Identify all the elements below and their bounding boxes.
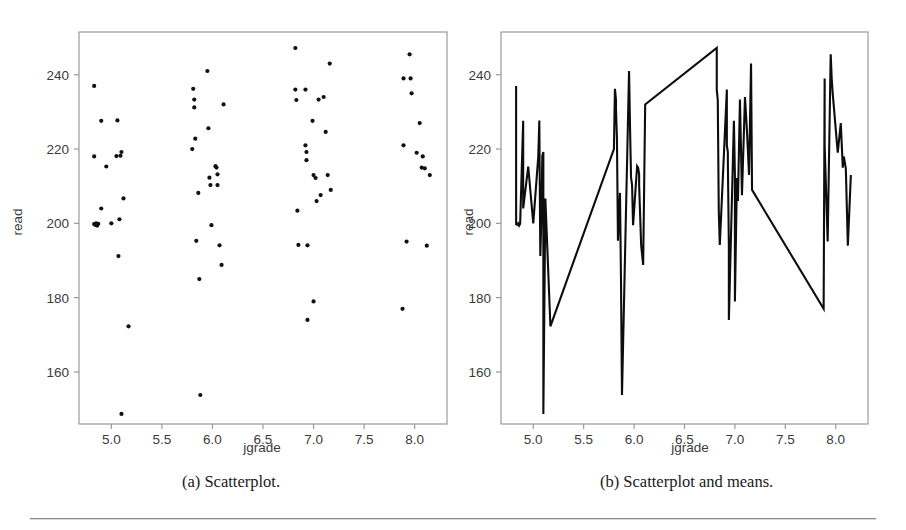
plot-ticks-b: 5.05.56.06.57.07.58.0160180200220240 bbox=[468, 68, 845, 447]
scatter-point bbox=[319, 193, 323, 197]
scatter-point bbox=[303, 143, 307, 147]
scatter-point bbox=[295, 209, 299, 213]
scatter-point bbox=[423, 166, 427, 170]
scatter-point bbox=[326, 173, 330, 177]
scatter-point bbox=[294, 98, 298, 102]
scatter-point bbox=[401, 76, 405, 80]
scatter-point bbox=[119, 412, 123, 416]
scatter-point bbox=[214, 166, 218, 170]
svg-text:7.5: 7.5 bbox=[776, 432, 795, 447]
scatter-point bbox=[317, 98, 321, 102]
scatter-point bbox=[118, 154, 122, 158]
scatter-point bbox=[207, 176, 211, 180]
plot-frame-a bbox=[79, 32, 447, 424]
means-polyline-b bbox=[516, 48, 851, 414]
scatter-point bbox=[401, 143, 405, 147]
svg-text:180: 180 bbox=[468, 291, 491, 306]
scatter-point bbox=[215, 172, 219, 176]
scatter-point bbox=[407, 52, 411, 56]
scatter-point bbox=[99, 206, 103, 210]
svg-text:7.0: 7.0 bbox=[304, 432, 323, 447]
scatter-point bbox=[418, 121, 422, 125]
scatter-points-a bbox=[92, 46, 432, 416]
scatter-point bbox=[196, 191, 200, 195]
scatter-point bbox=[126, 324, 130, 328]
scatter-point bbox=[190, 147, 194, 151]
figure-row: 5.05.56.06.57.07.58.0160180200220240 jgr… bbox=[0, 0, 906, 500]
scatter-point bbox=[192, 105, 196, 109]
x-axis-label-a: jgrade bbox=[242, 440, 281, 455]
svg-text:240: 240 bbox=[468, 68, 491, 83]
svg-text:7.5: 7.5 bbox=[355, 432, 374, 447]
scatter-point bbox=[293, 87, 297, 91]
svg-text:5.0: 5.0 bbox=[524, 432, 543, 447]
plot-ticks-a: 5.05.56.06.57.07.58.0160180200220240 bbox=[46, 68, 424, 447]
scatter-point bbox=[193, 137, 197, 141]
scatter-point bbox=[115, 118, 119, 122]
scatter-point bbox=[400, 307, 404, 311]
scatter-point bbox=[404, 239, 408, 243]
caption-panel-b: (b) Scatterplot and means. bbox=[600, 472, 773, 492]
scatter-point bbox=[305, 243, 309, 247]
scatter-point bbox=[194, 239, 198, 243]
scatter-point bbox=[409, 76, 413, 80]
scatter-point bbox=[192, 98, 196, 102]
scatter-point bbox=[206, 126, 210, 130]
svg-text:8.0: 8.0 bbox=[405, 432, 424, 447]
scatter-point bbox=[415, 151, 419, 155]
scatter-point bbox=[92, 84, 96, 88]
y-axis-label-a: read bbox=[10, 208, 25, 235]
scatter-point bbox=[303, 87, 307, 91]
scatter-point bbox=[328, 61, 332, 65]
panel-scatterplot-and-means: 5.05.56.06.57.07.58.0160180200220240 jgr… bbox=[453, 0, 906, 500]
scatter-point bbox=[96, 222, 100, 226]
scatter-point bbox=[421, 154, 425, 158]
scatter-point bbox=[305, 318, 309, 322]
scatter-point bbox=[310, 119, 314, 123]
scatter-point bbox=[117, 217, 121, 221]
scatter-point bbox=[428, 173, 432, 177]
scatter-point bbox=[425, 244, 429, 248]
svg-text:160: 160 bbox=[468, 365, 491, 380]
scatter-point bbox=[119, 150, 123, 154]
scatter-point bbox=[208, 183, 212, 187]
lineplot-svg: 5.05.56.06.57.07.58.0160180200220240 jgr… bbox=[453, 0, 906, 500]
scatter-point bbox=[311, 299, 315, 303]
svg-text:8.0: 8.0 bbox=[826, 432, 845, 447]
scatter-point bbox=[121, 196, 125, 200]
scatter-point bbox=[322, 95, 326, 99]
scatter-point bbox=[109, 221, 113, 225]
svg-text:240: 240 bbox=[46, 68, 69, 83]
scatter-point bbox=[304, 150, 308, 154]
panel-scatterplot: 5.05.56.06.57.07.58.0160180200220240 jgr… bbox=[0, 0, 453, 500]
scatter-point bbox=[217, 243, 221, 247]
scatter-point bbox=[329, 188, 333, 192]
scatter-point bbox=[324, 130, 328, 134]
scatter-point bbox=[116, 254, 120, 258]
scatter-point bbox=[410, 91, 414, 95]
svg-text:180: 180 bbox=[46, 291, 69, 306]
means-polyline bbox=[516, 48, 851, 414]
caption-panel-a: (a) Scatterplot. bbox=[182, 472, 280, 492]
svg-text:5.5: 5.5 bbox=[153, 432, 172, 447]
scatter-point bbox=[313, 176, 317, 180]
scatter-point bbox=[209, 223, 213, 227]
scatter-point bbox=[191, 87, 195, 91]
y-axis-label-b: read bbox=[461, 208, 476, 235]
scatter-point bbox=[92, 154, 96, 158]
scatter-point bbox=[198, 393, 202, 397]
scatter-point bbox=[219, 263, 223, 267]
scatter-point bbox=[215, 183, 219, 187]
svg-text:200: 200 bbox=[46, 216, 69, 231]
x-axis-label-b: jgrade bbox=[670, 440, 709, 455]
scatter-point bbox=[114, 154, 118, 158]
scatter-point bbox=[205, 69, 209, 73]
plot-frame-b bbox=[501, 32, 868, 424]
svg-text:220: 220 bbox=[46, 142, 69, 157]
svg-text:220: 220 bbox=[468, 142, 491, 157]
svg-text:5.0: 5.0 bbox=[102, 432, 121, 447]
svg-text:6.0: 6.0 bbox=[625, 432, 644, 447]
scatter-point bbox=[99, 119, 103, 123]
scatter-point bbox=[314, 199, 318, 203]
scatter-point bbox=[296, 243, 300, 247]
